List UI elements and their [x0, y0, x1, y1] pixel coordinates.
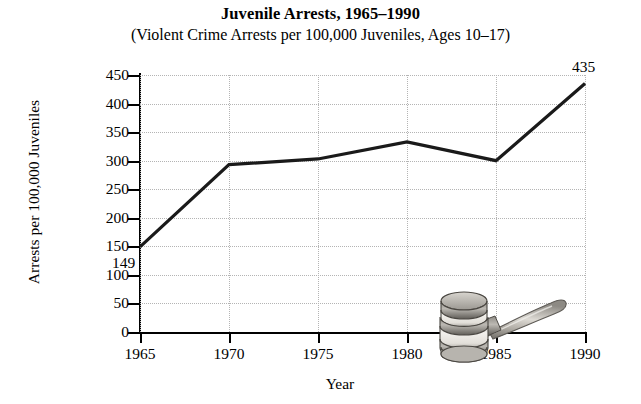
x-tick	[229, 332, 231, 343]
data-point-label: 149	[112, 254, 135, 272]
x-tick-label: 1975	[283, 345, 353, 363]
y-tick	[128, 246, 140, 248]
y-tick	[128, 75, 140, 77]
y-tick	[128, 303, 140, 305]
x-tick	[318, 332, 320, 343]
plot-area: 196519701975198019851990 149435	[140, 75, 585, 332]
data-point-label: 435	[572, 58, 595, 76]
x-axis-label: Year	[100, 375, 580, 393]
y-tick-label: 0	[85, 324, 129, 340]
x-tick-label: 1970	[194, 345, 264, 363]
gavel-icon	[431, 278, 571, 370]
chart-figure: Juvenile Arrests, 1965–1990 (Violent Cri…	[0, 0, 641, 404]
y-tick-label: 300	[85, 153, 129, 169]
y-tick	[128, 189, 140, 191]
y-tick-label: 250	[85, 181, 129, 197]
chart-title: Juvenile Arrests, 1965–1990	[0, 4, 641, 24]
y-tick	[128, 132, 140, 134]
y-axis-label: Arrests per 100,000 Juveniles	[25, 62, 43, 322]
y-tick-label: 400	[85, 96, 129, 112]
y-tick	[128, 332, 140, 334]
y-tick-label: 350	[85, 124, 129, 140]
y-tick	[128, 275, 140, 277]
x-tick	[140, 332, 142, 343]
chart-subtitle: (Violent Crime Arrests per 100,000 Juven…	[0, 26, 641, 44]
x-tick	[407, 332, 409, 343]
y-tick-label: 450	[85, 67, 129, 83]
y-tick-label: 150	[85, 238, 129, 254]
x-tick	[585, 332, 587, 343]
y-tick-label: 50	[85, 295, 129, 311]
y-tick	[128, 104, 140, 106]
gridline-vertical	[585, 75, 586, 332]
y-tick-label: 200	[85, 210, 129, 226]
arrest-rate-line	[140, 84, 585, 247]
x-tick-label: 1965	[105, 345, 175, 363]
y-tick	[128, 218, 140, 220]
y-tick	[128, 161, 140, 163]
